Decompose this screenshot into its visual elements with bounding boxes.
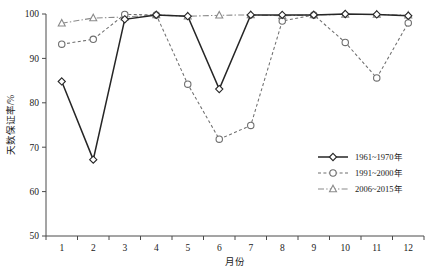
data-point: [405, 20, 411, 26]
x-tick-label: 8: [280, 243, 285, 253]
legend-label-3: 2006~2015年: [355, 184, 403, 194]
marker-circle: [330, 170, 336, 176]
chart-legend: 1961~1970年1991~2000年2006~2015年: [318, 152, 403, 194]
data-point: [216, 85, 223, 92]
marker-circle: [185, 81, 191, 87]
chart-canvas: 5060708090100123456789101112月份天数保证率/%196…: [0, 0, 437, 266]
data-point: [216, 12, 223, 19]
y-axis-title: 天数保证率/%: [5, 95, 16, 156]
y-tick-label: 60: [30, 187, 40, 197]
legend-marker-1: [329, 153, 336, 160]
marker-circle: [248, 122, 254, 128]
marker-diamond: [58, 78, 65, 85]
marker-circle: [405, 20, 411, 26]
marker-circle: [374, 75, 380, 81]
x-axis-title: 月份: [225, 256, 245, 266]
series-3: [58, 11, 411, 26]
x-tick-label: 3: [122, 243, 127, 253]
data-point: [248, 122, 254, 128]
data-point: [374, 75, 380, 81]
y-tick-label: 80: [30, 98, 40, 108]
data-point: [90, 156, 97, 163]
x-tick-label: 6: [217, 243, 222, 253]
x-tick-label: 7: [248, 243, 253, 253]
x-tick-label: 2: [91, 243, 96, 253]
x-tick-label: 9: [311, 243, 316, 253]
marker-circle: [216, 136, 222, 142]
marker-circle: [342, 39, 348, 45]
line-chart: 5060708090100123456789101112月份天数保证率/%196…: [0, 0, 437, 266]
series-1: [58, 10, 412, 163]
legend-marker-2: [330, 170, 336, 176]
data-point: [216, 136, 222, 142]
marker-diamond: [329, 153, 336, 160]
y-tick-label: 90: [30, 54, 40, 64]
marker-circle: [90, 36, 96, 42]
data-point: [185, 81, 191, 87]
data-point: [90, 36, 96, 42]
marker-triangle: [90, 14, 97, 21]
data-point: [90, 14, 97, 21]
series-line: [62, 14, 409, 23]
legend-label-1: 1961~1970年: [355, 152, 403, 162]
data-point: [59, 41, 65, 47]
y-tick-label: 70: [30, 143, 40, 153]
x-tick-label: 12: [404, 243, 414, 253]
x-tick-label: 11: [372, 243, 381, 253]
series-line: [62, 14, 409, 160]
data-point: [342, 39, 348, 45]
y-tick-label: 50: [30, 231, 40, 241]
marker-circle: [59, 41, 65, 47]
legend-marker-3: [330, 185, 337, 192]
x-tick-label: 10: [341, 243, 351, 253]
legend-label-2: 1991~2000年: [355, 168, 403, 178]
data-point: [58, 78, 65, 85]
marker-diamond: [90, 156, 97, 163]
x-tick-label: 1: [59, 243, 64, 253]
marker-triangle: [330, 185, 337, 192]
marker-triangle: [216, 12, 223, 19]
y-tick-label: 100: [25, 9, 40, 19]
marker-diamond: [216, 85, 223, 92]
x-tick-label: 4: [154, 243, 159, 253]
x-tick-label: 5: [185, 243, 190, 253]
series-line: [62, 14, 409, 139]
